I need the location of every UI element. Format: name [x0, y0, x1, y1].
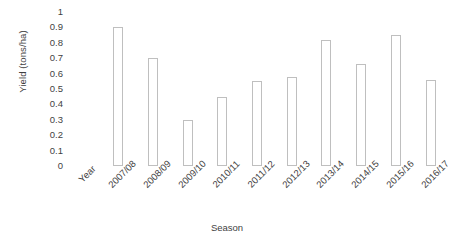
- bar[interactable]: [356, 64, 366, 166]
- x-label-slot: 2014/15: [344, 168, 379, 216]
- bar[interactable]: [183, 120, 193, 166]
- y-axis-tick-label: 0.5: [30, 84, 63, 94]
- y-axis-tick-label: 0.7: [30, 53, 63, 63]
- bar[interactable]: [321, 40, 331, 166]
- x-label-slot: 2010/11: [205, 168, 240, 216]
- bar-slot: [309, 12, 344, 166]
- bar[interactable]: [148, 58, 158, 166]
- bar-chart: Yield (tons/ha) 00.10.20.30.40.50.60.70.…: [0, 0, 454, 243]
- y-axis-title: Yield (tons/ha): [17, 2, 28, 122]
- bar-slot: [274, 12, 309, 166]
- y-axis-tick-label: 0.6: [30, 69, 63, 79]
- x-label-slot: 2008/09: [135, 168, 170, 216]
- bar[interactable]: [113, 27, 123, 166]
- bar-slot: [66, 12, 101, 166]
- y-axis-tick-label: 0.1: [30, 146, 63, 156]
- plot-area: [66, 12, 448, 166]
- bar-slot: [205, 12, 240, 166]
- bar-slot: [101, 12, 136, 166]
- y-axis-tick-label: 0.4: [30, 99, 63, 109]
- bar-slot: [344, 12, 379, 166]
- y-axis-tick-label: 0.8: [30, 38, 63, 48]
- x-label-slot: 2009/10: [170, 168, 205, 216]
- bar[interactable]: [287, 77, 297, 166]
- x-axis-tick-label: Year: [77, 163, 98, 184]
- bar[interactable]: [426, 80, 436, 166]
- bar[interactable]: [217, 97, 227, 166]
- bar-slot: [240, 12, 275, 166]
- x-label-slot: 2007/08: [101, 168, 136, 216]
- y-axis-tick-label: 0.3: [30, 115, 63, 125]
- x-label-slot: Year: [66, 168, 101, 216]
- bar-slot: [413, 12, 448, 166]
- bar[interactable]: [391, 35, 401, 166]
- x-label-slot: 2015/16: [379, 168, 414, 216]
- bar-slot: [135, 12, 170, 166]
- y-axis-tick-label: 0.2: [30, 130, 63, 140]
- y-axis-tick-labels: 00.10.20.30.40.50.60.70.80.91: [30, 6, 63, 172]
- bar-slot: [170, 12, 205, 166]
- bar-slot: [379, 12, 414, 166]
- x-label-slot: 2016/17: [413, 168, 448, 216]
- x-label-slot: 2012/13: [274, 168, 309, 216]
- x-label-slot: 2013/14: [309, 168, 344, 216]
- y-axis-tick-label: 0: [30, 161, 63, 171]
- x-label-slot: 2011/12: [240, 168, 275, 216]
- x-axis-title: Season: [0, 222, 454, 233]
- y-axis-tick-label: 0.9: [30, 22, 63, 32]
- x-axis-tick-labels: Year2007/082008/092009/102010/112011/122…: [66, 168, 448, 216]
- y-axis-tick-label: 1: [30, 7, 63, 17]
- bar[interactable]: [252, 81, 262, 166]
